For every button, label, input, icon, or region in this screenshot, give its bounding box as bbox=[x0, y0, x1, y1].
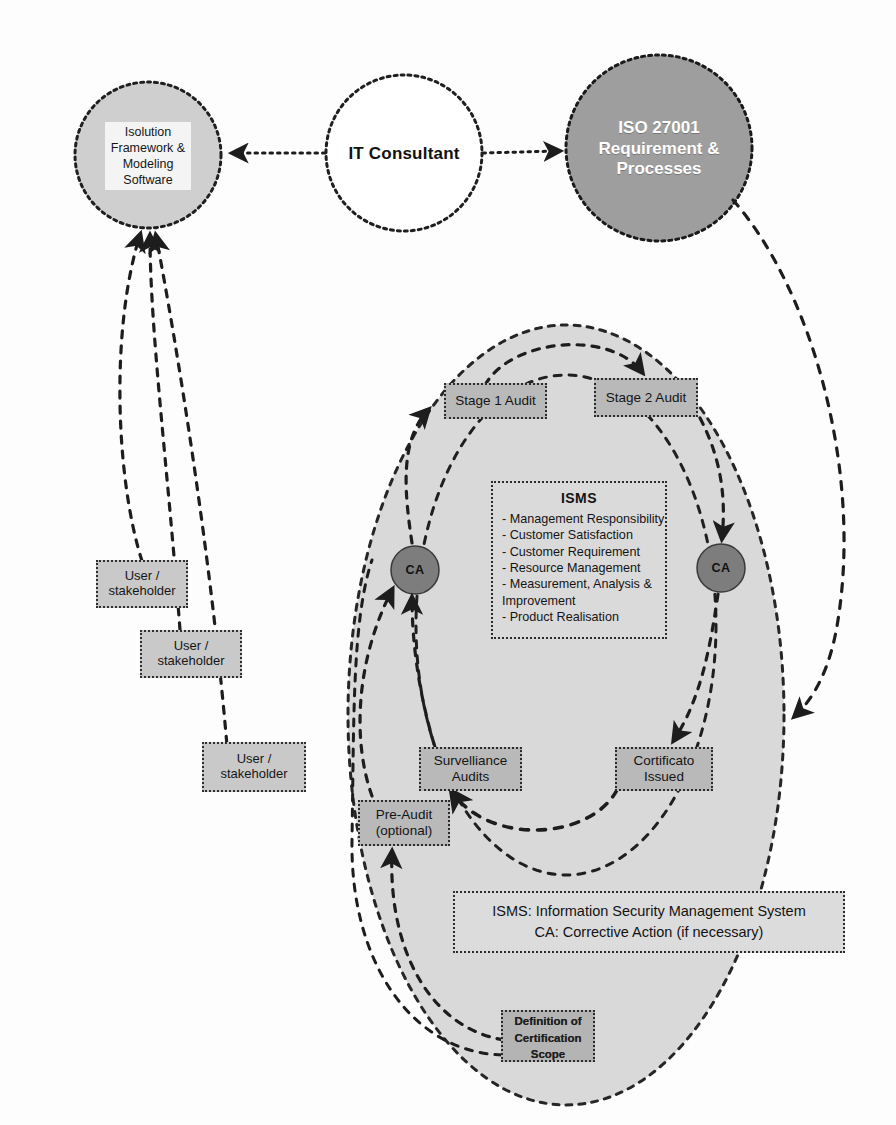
connector-consultant-to-iso bbox=[483, 151, 559, 153]
isms-item: - Measurement, Analysis & bbox=[502, 576, 656, 592]
isolution-label-wrapper: Isolution Framework & Modeling Software bbox=[96, 113, 200, 199]
connector-stakeholder3-to-isolution bbox=[156, 236, 228, 758]
isms-item: Improvement bbox=[502, 593, 656, 609]
stakeholder-box-1[interactable]: User / stakeholder bbox=[96, 560, 188, 608]
stakeholder-box-2[interactable]: User / stakeholder bbox=[140, 630, 242, 678]
isolution-label: Isolution Framework & Modeling Software bbox=[105, 122, 191, 190]
pre-audit-box[interactable]: Pre-Audit (optional) bbox=[358, 800, 450, 846]
stakeholder-box-3[interactable]: User / stakeholder bbox=[202, 742, 306, 792]
ca-label-right: CA bbox=[697, 556, 745, 580]
stage-2-audit-box[interactable]: Stage 2 Audit bbox=[594, 378, 698, 417]
isms-item: - Customer Requirement bbox=[502, 544, 656, 560]
isms-item: - Resource Management bbox=[502, 560, 656, 576]
legend-box: ISMS: Information Security Management Sy… bbox=[453, 891, 845, 953]
scope-text-layer-d: Certification bbox=[503, 1032, 593, 1046]
scope-text-layer-b: Definition of bbox=[503, 1015, 593, 1029]
certificate-issued-box[interactable]: Cortificato Issued bbox=[615, 747, 713, 791]
surveillance-audits-box[interactable]: Survelliance Audits bbox=[419, 747, 522, 791]
isms-item: - Customer Satisfaction bbox=[502, 527, 656, 543]
isms-item-list: - Management Responsibility - Customer S… bbox=[502, 511, 656, 626]
isms-item: - Product Realisation bbox=[502, 609, 656, 625]
scope-text-stack: Definition of Definition of Certificatio… bbox=[503, 1012, 593, 1060]
certification-scope-ellipse bbox=[348, 325, 784, 1105]
isms-panel[interactable]: ISMS - Management Responsibility - Custo… bbox=[491, 481, 667, 639]
iso-requirement-label: ISO 27001 Requirement & Processes bbox=[566, 108, 752, 190]
stage-1-audit-box[interactable]: Stage 1 Audit bbox=[444, 383, 547, 419]
scope-text-layer-f: Scope bbox=[503, 1048, 593, 1062]
legend-line-ca: CA: Corrective Action (if necessary) bbox=[535, 922, 764, 943]
connector-stakeholder1-to-isolution bbox=[120, 235, 142, 561]
diagram-canvas: Isolution Framework & Modeling Software … bbox=[0, 0, 896, 1125]
legend-line-isms: ISMS: Information Security Management Sy… bbox=[492, 901, 806, 922]
isms-panel-title: ISMS bbox=[502, 490, 656, 506]
isms-item: - Management Responsibility bbox=[502, 511, 656, 527]
it-consultant-label: IT Consultant bbox=[324, 140, 484, 168]
ca-label-left: CA bbox=[391, 558, 439, 582]
definition-of-certification-scope-box[interactable]: Definition of Definition of Certificatio… bbox=[501, 1010, 595, 1062]
